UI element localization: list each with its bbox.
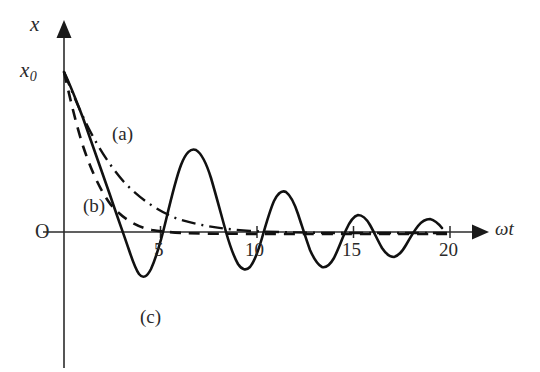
origin-label: O bbox=[35, 221, 49, 241]
initial-amplitude-symbol: x bbox=[20, 58, 29, 82]
x-axis-label: ωt bbox=[495, 219, 514, 238]
x-axis-arrow-icon bbox=[472, 225, 489, 240]
initial-amplitude-subscript: 0 bbox=[30, 69, 37, 84]
x-tick-label-5: 5 bbox=[154, 240, 164, 259]
time-symbol: t bbox=[508, 218, 513, 239]
omega-symbol: ω bbox=[495, 218, 508, 239]
damped-oscillation-figure: x x0 O 5 10 15 20 ωt (a) (b) (c) bbox=[0, 0, 540, 372]
curve-b-critically-damped bbox=[64, 72, 455, 234]
x-tick-label-10: 10 bbox=[245, 240, 264, 259]
curve-label-c: (c) bbox=[140, 307, 161, 326]
initial-amplitude-label: x0 bbox=[20, 60, 37, 84]
curve-label-b: (b) bbox=[83, 196, 105, 215]
curve-label-a: (a) bbox=[112, 124, 133, 143]
plot-canvas bbox=[0, 0, 540, 372]
curve-a-overdamped bbox=[64, 72, 452, 233]
x-tick-label-15: 15 bbox=[342, 240, 361, 259]
y-axis-arrow-icon bbox=[57, 20, 72, 38]
y-axis-label: x bbox=[30, 14, 39, 35]
x-tick-label-20: 20 bbox=[439, 240, 458, 259]
